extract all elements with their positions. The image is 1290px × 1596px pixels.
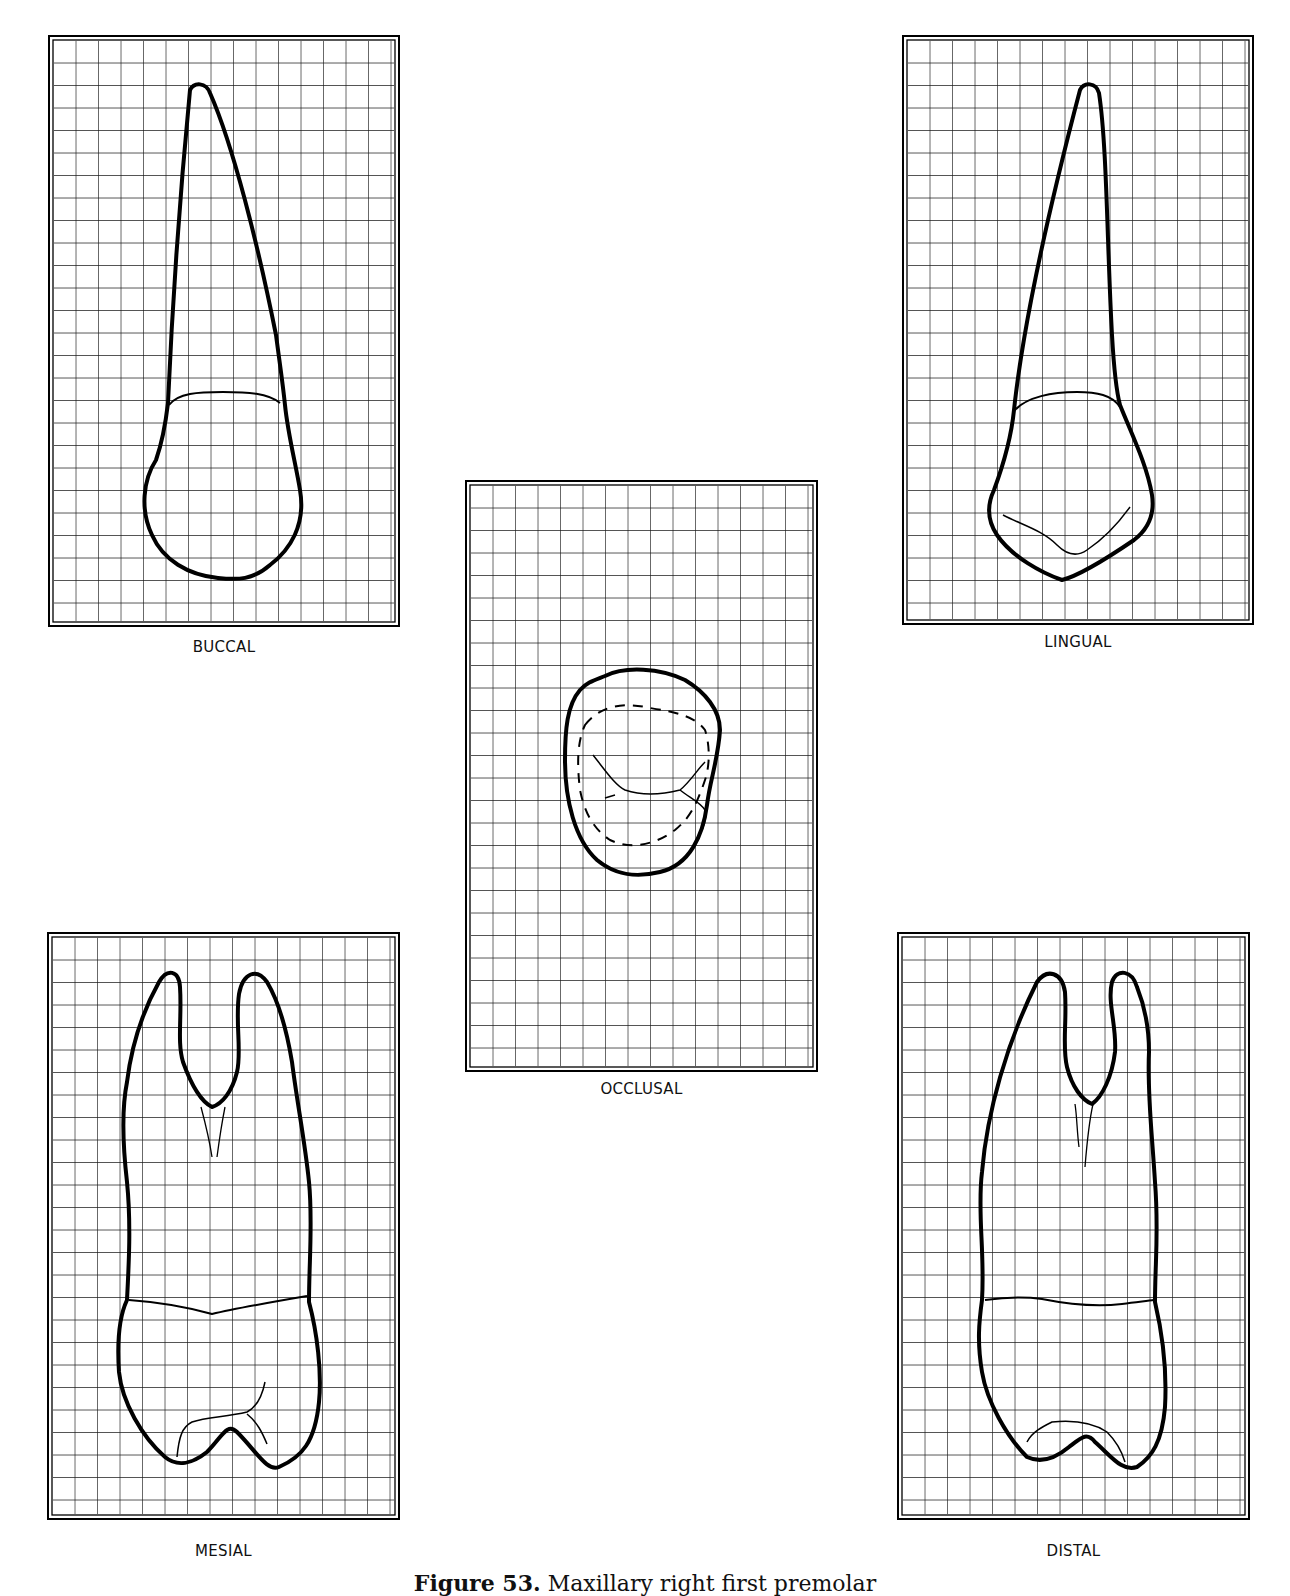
buccal-grid bbox=[48, 35, 400, 627]
lingual-view-panel: LINGUAL bbox=[902, 35, 1254, 625]
buccal-view-panel: BUCCAL bbox=[48, 35, 400, 627]
distal-grid bbox=[897, 932, 1250, 1520]
figure-number: Figure 53. bbox=[414, 1570, 541, 1596]
lingual-grid bbox=[902, 35, 1254, 625]
mesial-grid bbox=[47, 932, 400, 1520]
occlusal-view-panel: OCCLUSAL bbox=[465, 480, 818, 1072]
lingual-label: LINGUAL bbox=[902, 633, 1254, 651]
occlusal-grid bbox=[465, 480, 818, 1072]
occlusal-label: OCCLUSAL bbox=[465, 1080, 818, 1098]
figure-caption: Figure 53. Maxillary right first premola… bbox=[0, 1570, 1290, 1596]
mesial-label: MESIAL bbox=[47, 1542, 400, 1560]
buccal-label: BUCCAL bbox=[48, 638, 400, 656]
figure-title: Maxillary right first premolar bbox=[548, 1571, 877, 1596]
mesial-view-panel: MESIAL bbox=[47, 932, 400, 1520]
distal-label: DISTAL bbox=[897, 1542, 1250, 1560]
distal-view-panel: DISTAL bbox=[897, 932, 1250, 1520]
